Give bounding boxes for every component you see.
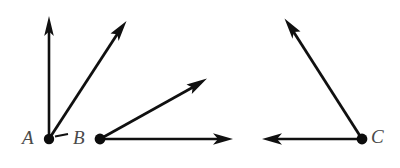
vertex-dot-b — [95, 134, 106, 145]
ray-c-diagonal-arrowhead — [285, 19, 301, 39]
ray-b-diagonal-arrowhead — [187, 79, 208, 95]
ray-a-vertical — [44, 16, 54, 139]
angle-tick-mark-a — [55, 134, 68, 137]
ray-b-horizontal — [100, 133, 233, 145]
vertex-label-c: C — [371, 127, 384, 146]
ray-c-diagonal — [285, 19, 363, 140]
ray-a-diagonal — [49, 21, 127, 139]
vertex-dot-a — [44, 134, 54, 144]
ray-b-diagonal-shaft — [100, 86, 196, 140]
ray-c-diagonal-shaft — [293, 31, 362, 139]
angle-group-c — [262, 19, 367, 145]
angle-group-b — [95, 79, 233, 145]
ray-b-diagonal — [100, 79, 207, 140]
vertex-label-b: B — [73, 128, 85, 147]
geometry-figure: A B C — [0, 0, 400, 168]
vertex-label-a: A — [22, 128, 34, 147]
angles-diagram-canvas — [0, 0, 400, 168]
ray-a-diagonal-arrowhead — [111, 21, 127, 41]
angle-group-a — [44, 16, 127, 144]
ray-a-diagonal-shaft — [49, 33, 118, 139]
vertex-dot-c — [357, 134, 368, 145]
ray-c-horizontal — [262, 133, 362, 145]
